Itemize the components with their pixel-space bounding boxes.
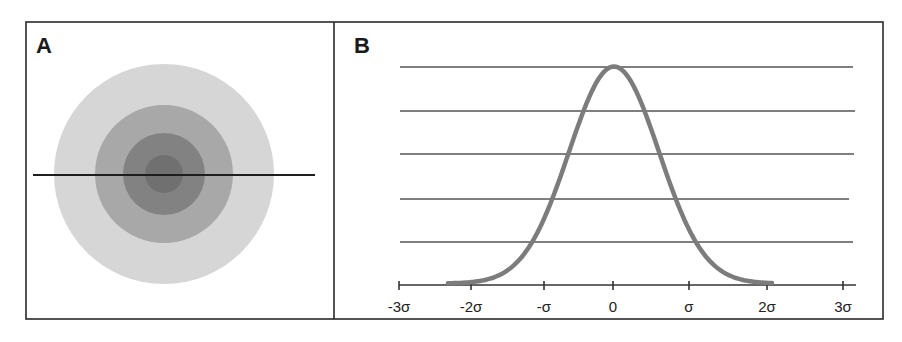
figure: A -3σ-2σ-σ0σ2σ3σ B: [0, 0, 902, 342]
tick-label: -3σ: [388, 298, 411, 315]
panel-a: A: [33, 33, 315, 284]
panel-a-label: A: [36, 33, 52, 58]
gaussian-curve: [448, 67, 772, 284]
tick-label: 3σ: [834, 298, 852, 315]
core: [145, 155, 183, 193]
tick-label: 2σ: [758, 298, 776, 315]
tick-label: -2σ: [460, 298, 483, 315]
tick-label: 0: [609, 298, 617, 315]
panel-b-label: B: [354, 33, 370, 58]
concentric-rings: [54, 64, 274, 284]
gridlines: [400, 67, 855, 242]
tick-label: σ: [684, 298, 694, 315]
panel-b: -3σ-2σ-σ0σ2σ3σ B: [354, 33, 856, 315]
tick-label: -σ: [537, 298, 552, 315]
x-axis-ticks: -3σ-2σ-σ0σ2σ3σ: [388, 281, 853, 315]
